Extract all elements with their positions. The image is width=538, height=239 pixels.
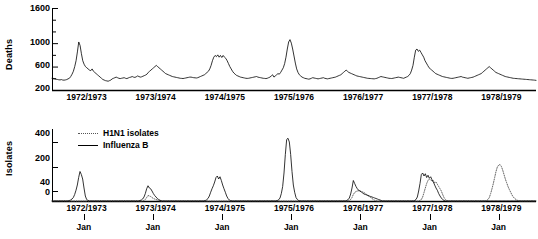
january-tick [222,214,223,220]
january-tick [430,214,431,220]
deaths-ytick-1000: 1000 [22,38,50,47]
deaths-season-label: 1976/1977 [331,92,395,102]
h1n1-series-line [52,165,536,202]
isolates-ytick-40: 40 [22,178,50,187]
isolates-panel: Isolates 400 200 40 0 H1N1 isolates Infl… [0,115,538,239]
isolates-season-label: 1974/1975 [193,203,257,213]
deaths-season-label: 1973/1974 [124,92,188,102]
january-label: Jan [479,222,519,232]
january-label: Jan [133,222,173,232]
isolates-season-label: 1976/1977 [331,203,395,213]
january-tick [153,214,154,220]
deaths-ytick-200: 200 [22,84,50,93]
isolates-season-label: 1975/1976 [262,203,326,213]
january-label: Jan [202,222,242,232]
isolates-season-label: 1973/1974 [124,203,188,213]
deaths-ytick-600: 600 [22,61,50,70]
deaths-season-label: 1975/1976 [262,92,326,102]
january-tick [291,214,292,220]
isolates-axis-title: Isolates [4,129,16,187]
january-label: Jan [64,222,104,232]
deaths-season-label: 1977/1978 [400,92,464,102]
deaths-series-line [52,40,536,82]
isolates-season-label: 1972/1973 [55,203,119,213]
deaths-ytick-1600: 1600 [22,4,50,13]
isolates-season-label: 1977/1978 [400,203,464,213]
influenza-b-series-line [52,138,536,201]
isolates-ytick-0: 0 [22,188,50,197]
deaths-season-label: 1978/1979 [469,92,533,102]
deaths-panel: Deaths 1600 1000 600 200 1972/19731973/1… [0,0,538,108]
isolates-ytick-200: 200 [22,154,50,163]
january-label: Jan [340,222,380,232]
january-label: Jan [410,222,450,232]
deaths-season-label: 1972/1973 [55,92,119,102]
deaths-season-label: 1974/1975 [193,92,257,102]
january-tick [499,214,500,220]
isolates-y-ticks [53,143,59,202]
january-tick [360,214,361,220]
january-tick [84,214,85,220]
isolates-ytick-400: 400 [22,129,50,138]
deaths-axis-title: Deaths [4,26,16,82]
isolates-season-label: 1978/1979 [469,203,533,213]
january-label: Jan [271,222,311,232]
